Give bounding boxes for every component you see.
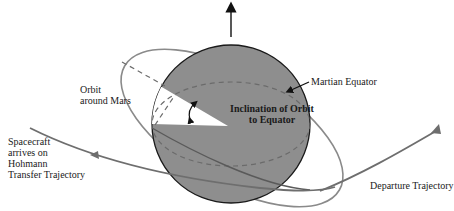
departure-arrowhead-icon: [431, 124, 441, 134]
arrival-label: Spacecraft arrives on Hohmann Transfer T…: [8, 136, 85, 180]
martian-equator-label: Martian Equator: [311, 76, 377, 87]
arrival-arrowhead-icon: [90, 151, 99, 159]
inclination-label: Inclination of Orbit to Equator: [212, 103, 332, 125]
mars-orbit-diagram: Orbit around Mars Martian Equator Inclin…: [0, 0, 454, 211]
departure-label: Departure Trajectory: [370, 180, 454, 191]
orbit-label: Orbit around Mars: [80, 84, 131, 106]
orbit-dashed-chord: [122, 62, 165, 86]
